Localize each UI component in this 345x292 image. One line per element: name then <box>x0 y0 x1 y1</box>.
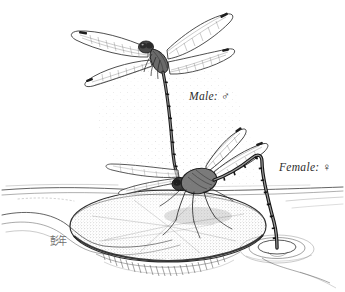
pair-connection-stipple <box>156 156 204 188</box>
female-shadow <box>164 207 232 225</box>
illustration-canvas: Male:♂ Female:♀ 彭年 <box>0 0 345 292</box>
artist-signature: 彭年 <box>50 232 66 248</box>
male-wing-upper-left <box>71 31 148 57</box>
label-male: Male:♂ <box>189 90 230 102</box>
female-symbol-icon: ♀ <box>319 161 331 173</box>
label-female: Female:♀ <box>279 161 331 173</box>
label-male-text: Male: <box>189 90 218 102</box>
male-symbol-icon: ♂ <box>218 90 230 102</box>
lily-pad <box>70 190 266 276</box>
label-female-text: Female: <box>279 161 319 173</box>
